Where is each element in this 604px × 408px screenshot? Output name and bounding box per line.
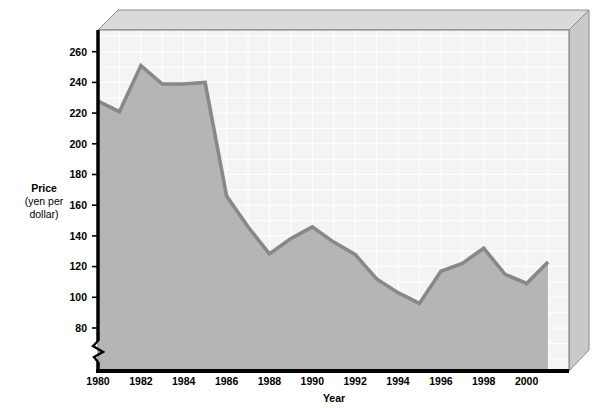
y-tick-label-200: 200 <box>69 138 87 150</box>
y-axis-title-line2: (yen per <box>25 195 64 207</box>
x-tick-label-1992: 1992 <box>343 375 367 387</box>
x-tick-label-1980: 1980 <box>86 375 110 387</box>
x-tick-label-1984: 1984 <box>172 375 196 387</box>
y-tick-label-140: 140 <box>69 230 87 242</box>
x-tick-label-1996: 1996 <box>429 375 453 387</box>
y-tick-label-100: 100 <box>69 291 87 303</box>
y-tick-label-160: 160 <box>69 199 87 211</box>
y-axis-title-line3: dollar) <box>29 208 58 220</box>
x-tick-label-1986: 1986 <box>215 375 239 387</box>
y-tick-label-220: 220 <box>69 107 87 119</box>
x-axis-title: Year <box>323 392 345 404</box>
y-tick-label-180: 180 <box>69 168 87 180</box>
chart-container: 260 240 220 200 180 160 140 120 100 80 1… <box>0 0 604 408</box>
x-tick-label-1990: 1990 <box>301 375 325 387</box>
y-tick-label-240: 240 <box>69 76 87 88</box>
x-tick-label-2000: 2000 <box>515 375 539 387</box>
x-tick-label-1994: 1994 <box>386 375 410 387</box>
yen-per-dollar-area-chart: 260 240 220 200 180 160 140 120 100 80 1… <box>0 0 604 408</box>
x-tick-label-1982: 1982 <box>129 375 153 387</box>
x-tick-label-1998: 1998 <box>472 375 496 387</box>
chart-3d-top-face <box>98 10 589 30</box>
chart-3d-right-face <box>569 10 589 371</box>
x-tick-label-1988: 1988 <box>258 375 282 387</box>
y-tick-label-120: 120 <box>69 260 87 272</box>
y-tick-label-260: 260 <box>69 46 87 58</box>
y-axis-title-line1: Price <box>31 182 57 194</box>
y-tick-label-80: 80 <box>75 322 87 334</box>
